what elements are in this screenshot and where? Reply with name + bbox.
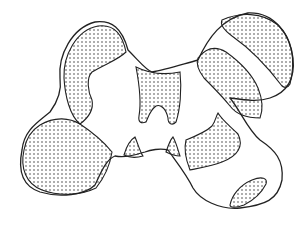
lower-left-lobe-shaded	[23, 119, 112, 194]
upper-left-lobe-shaded	[64, 26, 126, 124]
lower-right-lobe-shaded	[185, 113, 240, 170]
bone-shape-diagram	[0, 0, 307, 226]
center-small-triangle-right	[166, 137, 180, 156]
upper-right-inner-band-shaded	[197, 49, 262, 118]
center-small-triangle-left	[124, 137, 143, 157]
center-w-shape-shaded	[136, 67, 181, 124]
lower-right-small-oval-shaded	[230, 178, 266, 207]
